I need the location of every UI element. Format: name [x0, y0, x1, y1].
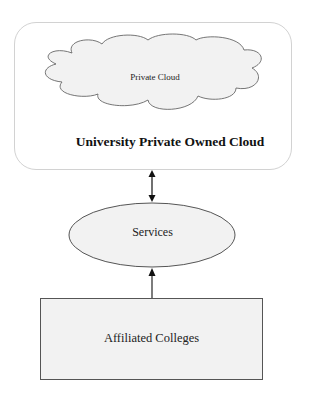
private-cloud-label: Private Cloud	[100, 72, 210, 82]
university-cloud-title: University Private Owned Cloud	[60, 134, 280, 150]
up-arrow-icon	[149, 268, 156, 298]
services-label: Services	[90, 225, 215, 240]
bidirectional-arrow-icon	[149, 170, 156, 202]
affiliated-colleges-label: Affiliated Colleges	[40, 331, 263, 346]
